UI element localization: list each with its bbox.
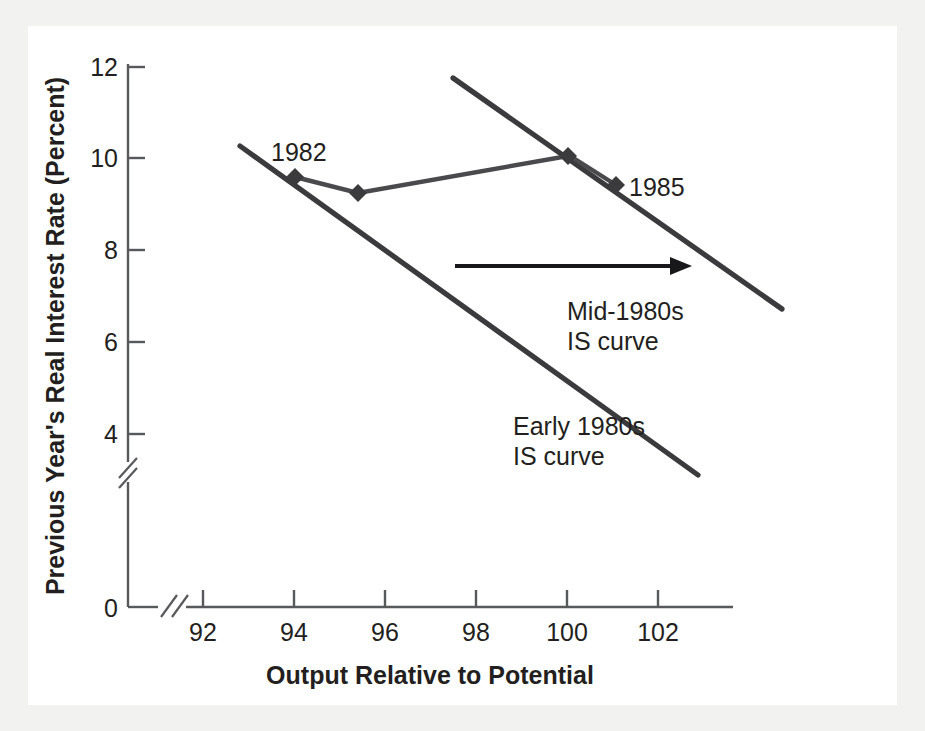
y-tick-label-4: 4 xyxy=(104,420,118,448)
shift-arrow-head xyxy=(670,257,692,275)
data-series-group xyxy=(286,147,625,202)
y-tick-label-10: 10 xyxy=(90,144,118,172)
annotation-mid-1980s-line1: Mid-1980s xyxy=(567,297,684,325)
y-tick-label-0: 0 xyxy=(104,594,118,622)
figure-container: 12 10 8 6 4 0 92 94 96 98 100 102 Previo… xyxy=(0,0,925,731)
annotation-mid-1980s-line2: IS curve xyxy=(567,327,659,355)
annotation-early-1980s-line2: IS curve xyxy=(513,442,605,470)
x-tick-label-92: 92 xyxy=(189,618,217,646)
annotation-early-1980s-line1: Early 1980s xyxy=(513,412,645,440)
mid-1980s-is-curve xyxy=(453,78,782,309)
y-tick-label-12: 12 xyxy=(90,53,118,81)
y-axis-title: Previous Year's Real Interest Rate (Perc… xyxy=(41,77,69,595)
y-tick-label-8: 8 xyxy=(104,236,118,264)
data-marker-1983 xyxy=(349,184,367,202)
x-tick-labels: 92 94 96 98 100 102 xyxy=(189,618,679,646)
early-1980s-is-curve xyxy=(240,146,627,424)
chart-canvas: 12 10 8 6 4 0 92 94 96 98 100 102 Previo… xyxy=(0,0,925,731)
x-tick-label-100: 100 xyxy=(546,618,588,646)
x-tick-label-102: 102 xyxy=(637,618,679,646)
y-tick-label-6: 6 xyxy=(104,328,118,356)
rightward-shift-arrow xyxy=(455,257,692,275)
x-tick-label-96: 96 xyxy=(371,618,399,646)
annotation-1985: 1985 xyxy=(629,173,685,201)
x-tick-label-98: 98 xyxy=(462,618,490,646)
y-tick-labels: 12 10 8 6 4 0 xyxy=(90,53,118,622)
annotation-1982: 1982 xyxy=(271,138,327,166)
x-axis-title: Output Relative to Potential xyxy=(266,661,594,689)
x-tick-label-94: 94 xyxy=(280,618,308,646)
